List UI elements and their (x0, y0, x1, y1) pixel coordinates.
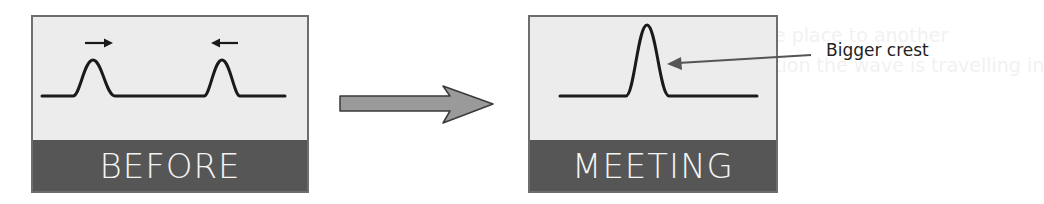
right-arrow-icon (85, 39, 113, 48)
transition-arrow-icon (340, 86, 493, 123)
before-wave (42, 60, 285, 96)
callout-pointer-arrow-icon (667, 55, 811, 70)
left-arrow-icon (211, 39, 238, 48)
bigger-crest-callout: Bigger crest (826, 40, 929, 60)
